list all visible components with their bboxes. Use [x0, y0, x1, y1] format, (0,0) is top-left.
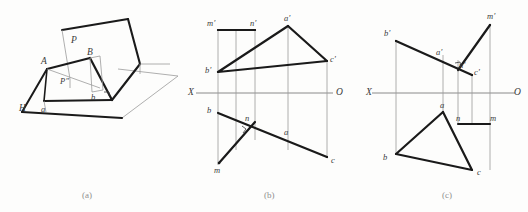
label-point-b-c: b: [383, 152, 388, 162]
caption-a: (a): [82, 190, 92, 200]
label-c-prime-c: c′: [474, 67, 480, 77]
axis-label-x-c: X: [366, 87, 372, 97]
axis-label-o-c: O: [514, 87, 521, 97]
label-b-prime-c: b′: [384, 28, 391, 38]
panel-c-drawing: [0, 0, 528, 212]
label-point-n-c: n: [456, 113, 461, 123]
horizontal-view-c: [396, 112, 490, 170]
label-a-prime-c: a′: [436, 47, 443, 57]
label-point-m-c: m: [490, 113, 496, 123]
figure-sheet: P A B P″ b a H: [0, 0, 528, 212]
caption-b: (b): [264, 190, 275, 200]
caption-c: (c): [442, 190, 452, 200]
label-point-c-c: c: [477, 167, 481, 177]
label-point-a-c: a: [440, 100, 445, 110]
label-m-prime-c: m′: [487, 11, 496, 21]
label-n-prime-c: n′: [459, 60, 466, 70]
